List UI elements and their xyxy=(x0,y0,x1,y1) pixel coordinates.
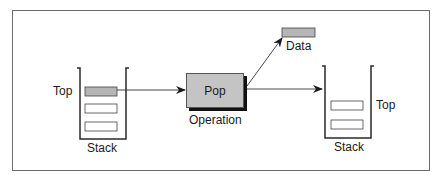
operation-caption: Operation xyxy=(189,113,242,127)
right-stack-item xyxy=(331,120,363,129)
left-stack-item xyxy=(85,122,117,131)
data-output-box xyxy=(282,28,315,37)
data-label: Data xyxy=(286,39,311,53)
left-stack-top-label: Top xyxy=(53,84,72,98)
pop-label: Pop xyxy=(204,84,225,98)
pop-operation-box: Pop xyxy=(186,73,244,108)
arrow-pop-to-data xyxy=(247,38,282,86)
right-stack-top-item xyxy=(331,101,363,110)
left-stack xyxy=(77,68,129,139)
left-stack-label: Stack xyxy=(87,141,117,155)
left-stack-item xyxy=(85,104,117,113)
right-stack-label: Stack xyxy=(334,140,364,154)
right-stack xyxy=(322,66,374,138)
left-stack-top-item xyxy=(85,87,117,96)
right-stack-top-label: Top xyxy=(376,98,395,112)
